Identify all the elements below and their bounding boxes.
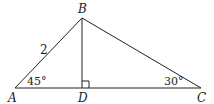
triangle-diagram: B A D C 2 45° 30°	[0, 0, 214, 104]
right-angle-marker	[82, 81, 89, 88]
vertex-label-b: B	[77, 2, 87, 16]
vertex-label-a: A	[7, 91, 17, 104]
angle-label-a: 45°	[27, 75, 47, 88]
side-label-ab: 2	[40, 43, 48, 57]
vertex-label-c: C	[197, 91, 206, 104]
vertex-label-d: D	[77, 91, 88, 104]
angle-label-c: 30°	[164, 75, 184, 88]
segment-ab	[15, 18, 82, 88]
